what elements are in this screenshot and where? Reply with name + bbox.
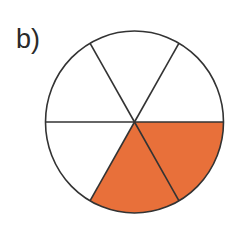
fraction-circle: [0, 0, 247, 226]
